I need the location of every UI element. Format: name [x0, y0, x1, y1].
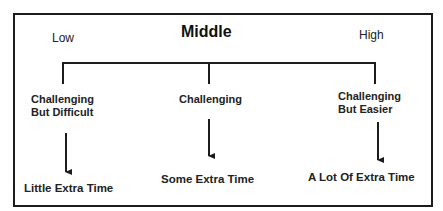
- branch-low-challenge-line2: But Difficult: [31, 106, 94, 119]
- arrows: [66, 119, 378, 172]
- branch-high-result: A Lot Of Extra Time: [308, 171, 415, 184]
- branch-middle-challenge-line1: Challenging: [179, 93, 242, 106]
- branch-middle-result: Some Extra Time: [161, 173, 254, 186]
- header-high: High: [359, 29, 384, 43]
- branch-high-challenge: Challenging But Easier: [338, 90, 401, 115]
- header-low: Low: [52, 32, 74, 46]
- branch-low-challenge: Challenging But Difficult: [31, 93, 94, 118]
- branch-high-challenge-line2: But Easier: [338, 103, 401, 116]
- branch-high-challenge-line1: Challenging: [338, 90, 401, 103]
- branch-low-result: Little Extra Time: [24, 182, 113, 195]
- branch-middle-challenge: Challenging: [179, 93, 242, 106]
- branch-low-challenge-line1: Challenging: [31, 93, 94, 106]
- header-middle: Middle: [181, 23, 232, 41]
- bracket-line: [63, 62, 376, 84]
